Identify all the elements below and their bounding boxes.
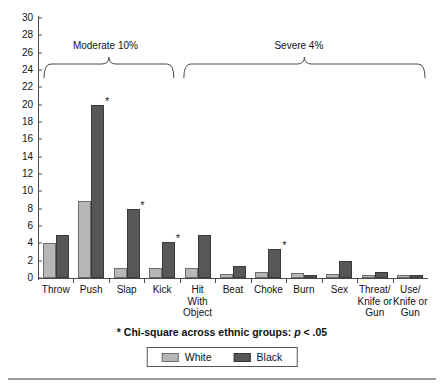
- bar-white[interactable]: [43, 243, 56, 278]
- x-axis-label: Choke: [251, 284, 286, 296]
- x-tick-mark: [109, 278, 110, 283]
- x-tick-mark: [322, 278, 323, 283]
- x-tick-mark: [357, 278, 358, 283]
- footnote-suffix: < .05: [301, 326, 328, 338]
- bar-group: [393, 18, 428, 278]
- y-tick-label: 2: [27, 256, 38, 266]
- x-axis-label: Hit With Object: [180, 284, 215, 319]
- bar-pair: *: [251, 18, 286, 278]
- bar-group: *: [251, 18, 286, 278]
- bar-white[interactable]: [326, 274, 339, 278]
- bar-pair: [393, 18, 428, 278]
- y-tick-label: 24: [22, 65, 38, 75]
- x-tick-mark: [215, 278, 216, 283]
- y-tick-label: 0: [27, 273, 38, 283]
- bar-white[interactable]: [397, 275, 410, 278]
- bar-pair: [215, 18, 250, 278]
- bar-pair: *: [109, 18, 144, 278]
- bar-group: [286, 18, 321, 278]
- footnote-prefix: * Chi-square across ethnic groups:: [117, 326, 294, 338]
- legend-swatch-black: [234, 353, 251, 362]
- legend-label-white: White: [185, 351, 212, 363]
- bar-black[interactable]: [56, 235, 69, 278]
- y-tick-label: 8: [27, 204, 38, 214]
- legend-label-black: Black: [257, 351, 283, 363]
- y-tick-label: 28: [22, 30, 38, 40]
- bar-group: *: [144, 18, 179, 278]
- bar-black[interactable]: *: [268, 249, 281, 278]
- x-axis-line: [38, 278, 428, 279]
- x-tick-mark: [393, 278, 394, 283]
- legend-item-white: White: [162, 351, 212, 363]
- x-axis-label: Beat: [215, 284, 250, 296]
- bar-pair: *: [73, 18, 108, 278]
- bar-black[interactable]: *: [162, 242, 175, 278]
- x-axis-label: Throw: [38, 284, 73, 296]
- bar-pair: [38, 18, 73, 278]
- bar-group: [357, 18, 392, 278]
- bar-black[interactable]: [304, 275, 317, 278]
- x-axis-label: Use/ Knife or Gun: [393, 284, 428, 319]
- bar-pair: [180, 18, 215, 278]
- x-axis-label: Slap: [109, 284, 144, 296]
- y-tick-label: 10: [22, 186, 38, 196]
- bar-black[interactable]: [375, 272, 388, 278]
- y-tick-label: 22: [22, 82, 38, 92]
- y-tick-label: 12: [22, 169, 38, 179]
- bar-group: [215, 18, 250, 278]
- bar-black[interactable]: [339, 261, 352, 278]
- x-axis-label: Threat/ Knife or Gun: [357, 284, 392, 319]
- chart-legend: White Black: [147, 347, 298, 367]
- x-axis-label: Push: [73, 284, 108, 296]
- bar-chart: 024681012141618202224262830 **** ThrowPu…: [0, 0, 444, 389]
- bracket-label-moderate: Moderate 10%: [73, 40, 138, 51]
- y-tick-label: 6: [27, 221, 38, 231]
- bar-pair: [286, 18, 321, 278]
- x-axis-label: Kick: [144, 284, 179, 296]
- x-tick-mark: [251, 278, 252, 283]
- y-tick-label: 30: [22, 13, 38, 23]
- y-tick-label: 14: [22, 152, 38, 162]
- bottom-divider: [8, 378, 436, 380]
- bar-white[interactable]: [220, 274, 233, 278]
- y-tick-label: 16: [22, 134, 38, 144]
- x-axis-label: Sex: [322, 284, 357, 296]
- x-tick-mark: [73, 278, 74, 283]
- significance-footnote: * Chi-square across ethnic groups: p < .…: [0, 326, 444, 338]
- y-tick-label: 4: [27, 238, 38, 248]
- bar-group: [180, 18, 215, 278]
- bracket-label-severe: Severe 4%: [274, 40, 323, 51]
- x-tick-mark: [180, 278, 181, 283]
- bar-black[interactable]: [198, 235, 211, 278]
- bar-pair: *: [144, 18, 179, 278]
- bar-white[interactable]: [362, 275, 375, 278]
- bar-group: *: [73, 18, 108, 278]
- legend-item-black: Black: [234, 351, 283, 363]
- bar-white[interactable]: [114, 268, 127, 278]
- bar-group: [38, 18, 73, 278]
- x-tick-mark: [144, 278, 145, 283]
- bar-group: *: [109, 18, 144, 278]
- bar-group: [322, 18, 357, 278]
- legend-swatch-white: [162, 353, 179, 362]
- y-tick-label: 26: [22, 48, 38, 58]
- bar-white[interactable]: [255, 272, 268, 278]
- bar-pair: [322, 18, 357, 278]
- bar-white[interactable]: [291, 273, 304, 278]
- bar-black[interactable]: [410, 275, 423, 278]
- bar-white[interactable]: [185, 268, 198, 278]
- bar-white[interactable]: [78, 201, 91, 278]
- bar-black[interactable]: [233, 266, 246, 278]
- y-tick-label: 20: [22, 100, 38, 110]
- bar-black[interactable]: *: [127, 209, 140, 278]
- x-tick-mark: [286, 278, 287, 283]
- x-axis-label: Burn: [286, 284, 321, 296]
- bar-black[interactable]: *: [91, 105, 104, 278]
- bar-white[interactable]: [149, 268, 162, 278]
- bar-pair: [357, 18, 392, 278]
- y-tick-label: 18: [22, 117, 38, 127]
- bar-groups: ****: [38, 18, 428, 278]
